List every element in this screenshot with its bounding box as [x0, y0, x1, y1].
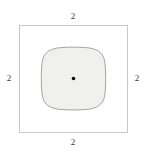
dimension-label-top: 2	[65, 11, 81, 21]
center-dot	[72, 77, 76, 81]
dimension-label-right: 2	[129, 73, 145, 83]
dimension-label-bottom: 2	[65, 137, 81, 147]
figure-canvas	[0, 0, 146, 158]
geometry-figure: 2 2 2 2	[0, 0, 146, 158]
dimension-label-left: 2	[1, 73, 17, 83]
